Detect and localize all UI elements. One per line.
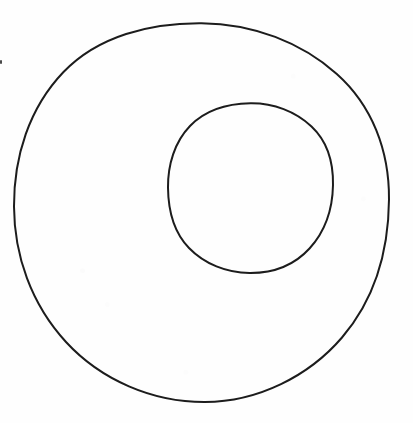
diagram-canvas: Two circles: a large outer circle and a … bbox=[0, 0, 413, 423]
inner-circle bbox=[168, 103, 333, 273]
inner-circle-group bbox=[168, 103, 333, 273]
outer-circle bbox=[14, 23, 389, 402]
scan-speck bbox=[0, 60, 2, 64]
outer-circle-group bbox=[14, 23, 389, 402]
circles-figure: Two circles: a large outer circle and a … bbox=[0, 0, 413, 423]
